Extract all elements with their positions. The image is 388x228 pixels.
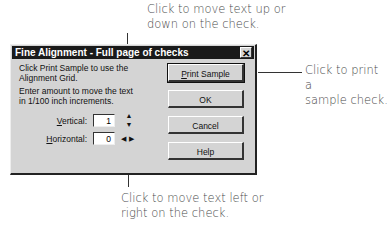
horizontal-spinner[interactable]: ◀ ▶	[121, 135, 134, 142]
right-arrow-icon[interactable]: ▶	[129, 135, 134, 142]
callout-print-sample: Click to print a sample check.	[305, 63, 388, 108]
vertical-input[interactable]: 1	[93, 114, 115, 127]
instruction-print-sample: Click Print Sample to use the Alignment …	[19, 63, 141, 83]
title-bar: Fine Alignment - Full page of checks ✕	[12, 46, 254, 59]
callout-line: sample check.	[305, 93, 388, 108]
ok-button[interactable]: OK	[168, 90, 244, 108]
dialog-title: Fine Alignment - Full page of checks	[15, 47, 189, 58]
callout-line: Click to print a	[305, 63, 388, 93]
cancel-button[interactable]: Cancel	[168, 116, 244, 134]
label-text: ertical:	[62, 116, 87, 126]
fine-alignment-dialog: Fine Alignment - Full page of checks ✕ C…	[10, 44, 257, 175]
help-button[interactable]: Help	[168, 142, 244, 160]
instruction-increments: Enter amount to move the text in 1/100 i…	[19, 86, 141, 106]
callout-line: right on the check.	[121, 206, 263, 221]
callout-line: Click to move text up or	[147, 2, 285, 17]
horizontal-label: Horizontal:	[35, 134, 87, 144]
label-text: orizontal:	[53, 134, 88, 144]
vertical-label: Vertical:	[49, 116, 87, 126]
callout-vertical-adjust: Click to move text up or down on the che…	[147, 2, 285, 32]
callout-leader-right	[258, 72, 302, 73]
callout-line: down on the check.	[147, 17, 285, 32]
horizontal-input[interactable]: 0	[93, 132, 115, 145]
button-label: rint Sample	[187, 69, 230, 79]
callout-line: Click to move text left or	[121, 191, 263, 206]
close-icon: ✕	[242, 48, 250, 59]
close-button[interactable]: ✕	[240, 47, 252, 58]
up-arrow-icon[interactable]: ▲	[124, 112, 134, 119]
left-arrow-icon[interactable]: ◀	[121, 135, 126, 142]
print-sample-button[interactable]: Print Sample	[168, 64, 244, 82]
vertical-spinner[interactable]: ▲ ▼	[124, 112, 134, 128]
callout-horizontal-adjust: Click to move text left or right on the …	[121, 191, 263, 221]
down-arrow-icon[interactable]: ▼	[124, 121, 134, 128]
